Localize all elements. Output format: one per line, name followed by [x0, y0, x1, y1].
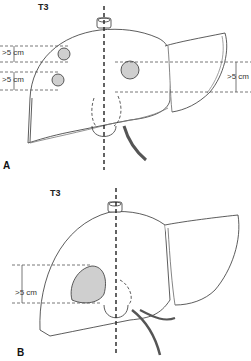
- liver-a: [0, 6, 251, 170]
- liver-diagram: [0, 0, 251, 361]
- liver-b: [12, 188, 239, 355]
